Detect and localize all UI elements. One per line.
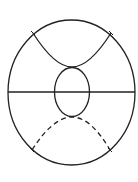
lower-dashed-curve [32, 117, 110, 150]
geometry-diagram [0, 0, 138, 182]
upper-solid-curve [33, 33, 111, 67]
